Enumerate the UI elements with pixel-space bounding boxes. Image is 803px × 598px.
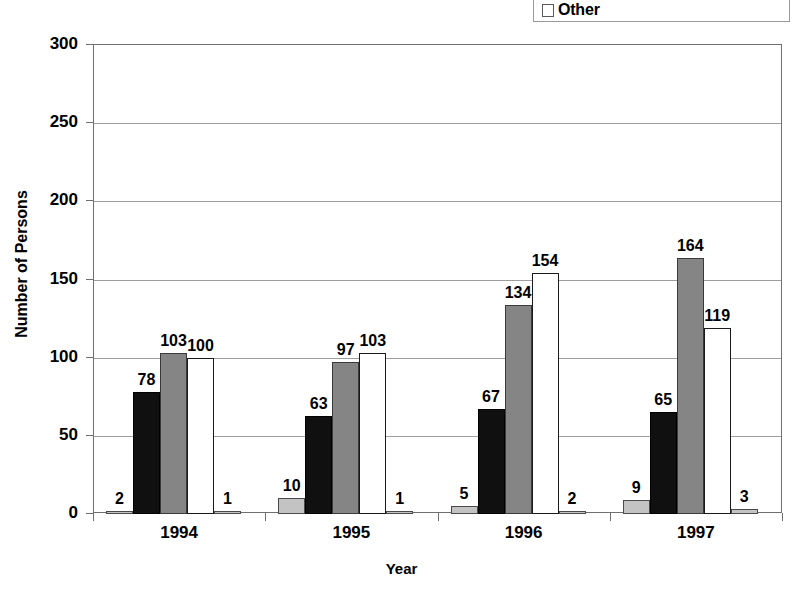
chart-legend: Other	[533, 0, 790, 22]
y-axis-tick-250: 250	[0, 113, 78, 130]
legend-entry-other: Other	[542, 2, 600, 18]
legend-label-other: Other	[558, 2, 600, 18]
legend-swatch-other-icon	[542, 4, 554, 17]
x-axis-separator	[782, 513, 783, 521]
bar-1997-series-5-other	[731, 509, 758, 514]
y-axis-title: Number of Persons	[13, 74, 31, 454]
x-axis-separator	[265, 513, 266, 521]
bar-value-1995-series-4: 103	[352, 333, 393, 349]
bar-1995-series-3	[332, 362, 359, 514]
bar-1995-series-2	[305, 416, 332, 514]
bar-1994-series-3	[160, 353, 187, 514]
x-axis-title: Year	[0, 560, 803, 577]
bar-1996-series-3	[505, 305, 532, 514]
bar-value-1995-series-5-other: 1	[379, 491, 420, 507]
bar-1994-series-2	[133, 392, 160, 514]
bar-1995-series-5-other	[386, 511, 413, 514]
x-axis-separator	[610, 513, 611, 521]
bar-1997-series-1	[623, 500, 650, 514]
y-axis-tick-200: 200	[0, 191, 78, 208]
gridline	[94, 123, 781, 124]
x-axis-separator	[93, 513, 94, 521]
x-axis-tick-1995: 1995	[306, 524, 396, 542]
bar-value-1997-series-5-other: 3	[724, 489, 765, 505]
x-axis-tick-1997: 1997	[651, 524, 741, 542]
bar-1994-series-5-other	[214, 511, 241, 514]
y-tick-mark	[86, 200, 93, 201]
bar-1997-series-3	[677, 258, 704, 514]
x-axis-tick-1996: 1996	[479, 524, 569, 542]
y-tick-mark	[86, 122, 93, 123]
bar-1995-series-4	[359, 353, 386, 514]
bar-1996-series-5-other	[559, 511, 586, 514]
y-axis-tick-150: 150	[0, 270, 78, 287]
bar-value-1996-series-5-other: 2	[552, 491, 593, 507]
bar-1997-series-2	[650, 412, 677, 514]
y-tick-mark	[86, 279, 93, 280]
y-tick-mark	[86, 435, 93, 436]
x-axis-separator	[438, 513, 439, 521]
bar-1995-series-1	[278, 498, 305, 514]
y-axis-tick-50: 50	[0, 426, 78, 443]
bar-1994-series-1	[106, 511, 133, 514]
bar-value-1997-series-3: 164	[670, 238, 711, 254]
y-axis-tick-300: 300	[0, 35, 78, 52]
gridline	[94, 201, 781, 202]
y-tick-mark	[86, 44, 93, 45]
bar-value-1994-series-5-other: 1	[207, 491, 248, 507]
bar-1996-series-2	[478, 409, 505, 514]
bar-1996-series-1	[451, 506, 478, 514]
bar-value-1997-series-4: 119	[697, 308, 738, 324]
y-tick-mark	[86, 357, 93, 358]
y-axis-tick-0: 0	[0, 504, 78, 521]
x-axis-tick-1994: 1994	[134, 524, 224, 542]
plot-area: 2781031001106397103156713415429651641193	[93, 44, 782, 513]
bar-value-1996-series-4: 154	[525, 253, 566, 269]
bar-1996-series-4	[532, 273, 559, 514]
y-tick-mark	[86, 513, 93, 514]
bar-1997-series-4	[704, 328, 731, 514]
bar-value-1994-series-4: 100	[180, 338, 221, 354]
y-axis-tick-100: 100	[0, 348, 78, 365]
